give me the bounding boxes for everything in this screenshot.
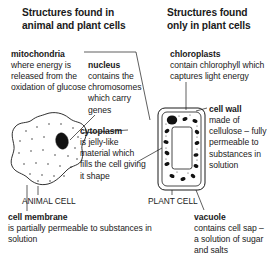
label-cell-wall-term: cell wall <box>209 104 268 115</box>
plant-nucleus-shape <box>167 115 177 124</box>
label-cell-membrane-description: is partially permeable to substances in … <box>8 223 158 245</box>
animal-cell-drawing <box>11 113 86 185</box>
plant-vacuole-shape <box>172 127 192 169</box>
plant-cell-drawing <box>158 108 205 190</box>
caption-plant-cell: PLANT CELL <box>148 196 218 207</box>
label-nucleus-term: nucleus <box>88 60 148 71</box>
label-cell-membrane-term: cell membrane <box>8 212 108 223</box>
label-cytoplasm-description: is jelly-like material which fills the c… <box>80 137 148 182</box>
label-cytoplasm-term: cytoplasm <box>80 126 150 137</box>
label-chloroplasts-term: chloroplasts <box>170 49 250 60</box>
label-nucleus-description: contains the chromosomes which carry gen… <box>88 71 150 116</box>
label-vacuole-description: contains cell sap – a solution of sugar … <box>194 223 268 254</box>
label-cell-wall-description: made of cellulose – fully permeable to s… <box>209 115 268 171</box>
heading-animal-and-plant: Structures found in animal and plant cel… <box>22 6 142 32</box>
label-mitochondria-description: where energy is released from the oxidat… <box>11 60 97 94</box>
caption-animal-cell: ANIMAL CELL <box>22 196 102 207</box>
label-mitochondria-term: mitochondria <box>11 49 103 60</box>
heading-plant-only: Structures found only in plant cells <box>167 6 267 32</box>
cell-structures-diagram: Structures found in animal and plant cel… <box>0 0 268 254</box>
label-chloroplasts-description: contain chlorophyll which captures light… <box>170 60 266 82</box>
label-vacuole-term: vacuole <box>194 212 254 223</box>
